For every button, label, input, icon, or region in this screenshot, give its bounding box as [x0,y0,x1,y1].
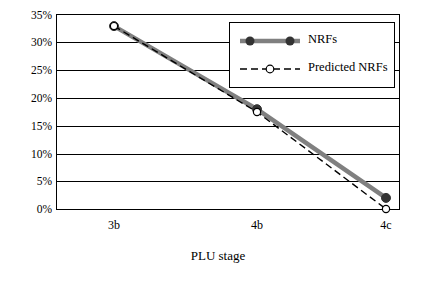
y-tick-label-5: 5% [6,176,52,187]
chart-legend: NRFs Predicted NRFs [229,22,395,88]
y-tick-label-25: 25% [6,65,52,76]
gridline-10 [57,154,399,155]
y-tick-label-10: 10% [6,149,52,160]
legend-item-nrfs: NRFs [230,29,394,53]
x-tick-label-3b: 3b [84,218,144,233]
gridline-15 [57,126,399,127]
chart-container: 35% 30% 25% 20% 15% 10% 5% 0% [0,0,436,281]
legend-swatch-predicted-nrfs [238,57,302,81]
y-tick-label-30: 30% [6,37,52,48]
legend-label-nrfs: NRFs [308,32,337,47]
gridline-5 [57,181,399,182]
y-tick-label-35: 35% [6,10,52,21]
y-tick-label-20: 20% [6,93,52,104]
x-axis-title: PLU stage [0,248,436,264]
legend-swatch-nrfs [238,29,302,53]
gridline-20 [57,98,399,99]
y-tick-label-0: 0% [6,204,52,215]
legend-label-predicted-nrfs: Predicted NRFs [308,60,388,75]
x-tick-label-4b: 4b [227,218,287,233]
y-tick-label-15: 15% [6,121,52,132]
legend-item-predicted-nrfs: Predicted NRFs [230,57,394,81]
x-tick-label-4c: 4c [356,218,416,233]
